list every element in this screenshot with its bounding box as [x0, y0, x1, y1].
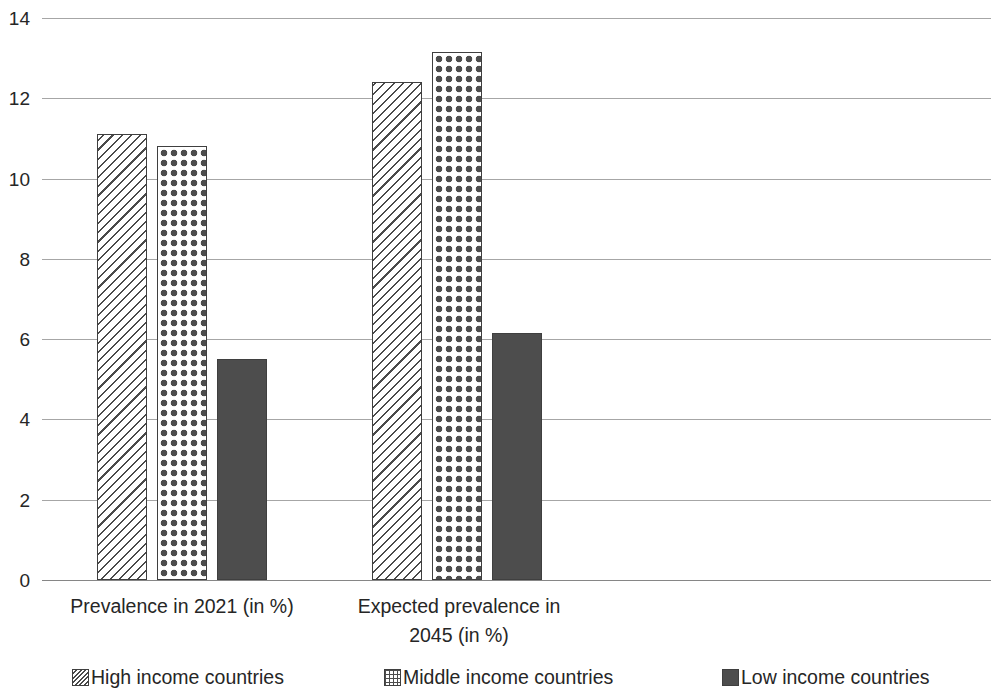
- grid-dots-swatch-icon: [384, 669, 401, 686]
- ytick-label-14: 14: [0, 9, 30, 28]
- gridline-14: [42, 18, 991, 19]
- bar-2045-high-income: [372, 82, 422, 580]
- ytick-label-12: 12: [0, 89, 30, 108]
- legend-item-middle-income[interactable]: Middle income countries: [384, 663, 613, 691]
- legend-label-high-income: High income countries: [91, 663, 284, 691]
- ytick-label-4: 4: [0, 410, 30, 429]
- ytick-label-6: 6: [0, 330, 30, 349]
- gridline-12: [42, 98, 991, 99]
- ytick-label-8: 8: [0, 250, 30, 269]
- legend-label-low-income: Low income countries: [741, 663, 930, 691]
- bar-2021-low-income: [217, 359, 267, 580]
- bar-2045-middle-income: [432, 52, 482, 580]
- category-label-2045: Expected prevalence in 2045 (in %): [340, 592, 578, 650]
- gridline-0: [42, 580, 991, 581]
- chart-legend: High income countries Middle income coun…: [0, 663, 991, 699]
- bar-2021-middle-income: [157, 146, 207, 580]
- legend-item-low-income[interactable]: Low income countries: [722, 663, 930, 691]
- category-label-2021: Prevalence in 2021 (in %): [60, 592, 304, 621]
- plot-area: 14 12 10 8 6 4 2 0: [0, 0, 991, 600]
- hatch-swatch-icon: [72, 669, 89, 686]
- ytick-label-2: 2: [0, 491, 30, 510]
- bar-2021-high-income: [97, 134, 147, 580]
- bar-chart: 14 12 10 8 6 4 2 0 Prevalence in 2021 (i…: [0, 0, 991, 699]
- bar-2045-low-income: [492, 333, 542, 580]
- legend-label-middle-income: Middle income countries: [403, 663, 613, 691]
- legend-item-high-income[interactable]: High income countries: [72, 663, 284, 691]
- ytick-label-0: 0: [0, 571, 30, 590]
- ytick-label-10: 10: [0, 170, 30, 189]
- solid-swatch-icon: [722, 669, 739, 686]
